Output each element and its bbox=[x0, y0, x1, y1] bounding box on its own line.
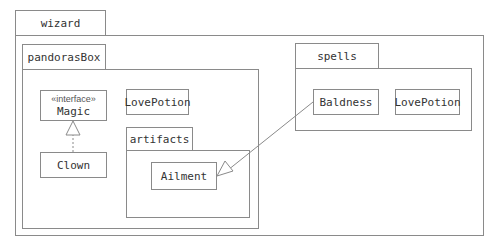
relationship-layer bbox=[0, 0, 496, 250]
realization-arrow bbox=[66, 121, 80, 152]
diagram-canvas: wizard pandorasBox spells artifacts «int… bbox=[0, 0, 496, 250]
generalization-arrow bbox=[217, 102, 313, 176]
